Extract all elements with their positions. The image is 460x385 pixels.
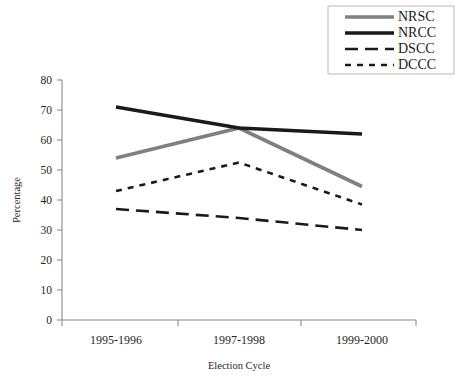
x-axis-ticks: 1995-19961997-19981999-2000 (62, 320, 416, 347)
y-tick-label: 20 (41, 254, 53, 266)
y-tick-label: 70 (41, 104, 53, 116)
legend-label-nrsc: NRSC (398, 9, 435, 24)
series-group (116, 107, 362, 230)
y-tick-label: 30 (41, 224, 53, 236)
y-axis-title: Percentage (11, 177, 22, 223)
x-axis-title: Election Cycle (208, 360, 270, 371)
y-axis-ticks: 01020304050607080 (41, 74, 63, 326)
x-tick-label: 1999-2000 (336, 333, 388, 347)
series-line-dscc (116, 209, 362, 230)
line-chart-figure: · · ·· · · ·· · ·· · · · ·· · · 01020304… (0, 0, 460, 385)
legend-label-dccc: DCCC (398, 57, 436, 72)
chart-canvas: 01020304050607080 1995-19961997-19981999… (0, 0, 460, 385)
legend-label-dscc: DSCC (398, 41, 435, 56)
series-line-nrsc (116, 128, 362, 187)
y-tick-label: 40 (41, 194, 53, 206)
legend-label-nrcc: NRCC (398, 25, 436, 40)
chart-legend: NRSCNRCCDSCCDCCC (328, 6, 454, 74)
y-tick-label: 10 (41, 284, 53, 296)
y-tick-label: 50 (41, 164, 53, 176)
axes-group (62, 80, 416, 320)
x-tick-label: 1995-1996 (90, 333, 142, 347)
y-tick-label: 0 (46, 314, 52, 326)
y-tick-label: 80 (41, 74, 53, 86)
y-tick-label: 60 (41, 134, 53, 146)
x-tick-label: 1997-1998 (213, 333, 265, 347)
